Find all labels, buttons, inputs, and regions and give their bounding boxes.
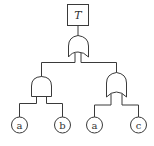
branch-right [81,63,117,74]
basic-event-b: b [55,117,71,133]
top-or-gate-icon [69,36,89,58]
branch-left [42,63,76,78]
left-and-gate-icon [32,77,52,97]
basic-event-c: c [131,117,147,133]
left-gate-leg-a [20,97,37,118]
basic-event-a-right: a [87,117,103,133]
right-gate-leg-c [122,94,139,118]
left-gate-leg-b [47,97,63,118]
svg-text:b: b [59,120,65,131]
right-or-gate-icon [107,73,127,98]
right-gate-leg-a [95,94,112,118]
svg-text:a: a [17,120,23,131]
top-event: T [68,5,89,26]
svg-text:a: a [92,120,98,131]
svg-text:c: c [136,120,142,131]
basic-event-a-left: a [12,117,28,133]
fault-tree-diagram: T a b a c [0,0,154,146]
